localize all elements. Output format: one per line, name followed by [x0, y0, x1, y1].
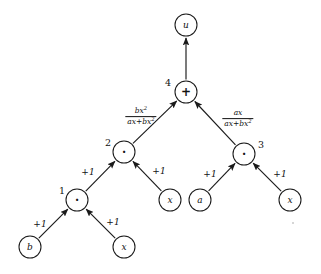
- computational-graph-figure: u+4·2·3·1xaxbxbx2ax+bx2axax+bx2+1+1+1+1+…: [0, 0, 321, 274]
- edge-label-e-a-n3: +1: [203, 169, 216, 179]
- fraction-denominator: ax+bx2: [125, 118, 156, 127]
- edge-label-e-n1-n2: +1: [81, 167, 94, 177]
- fraction-numerator: ax: [222, 109, 253, 118]
- fraction-numerator: bx2: [125, 107, 156, 116]
- edge-label-e-n3-n4: axax+bx2: [222, 109, 253, 129]
- edge-label-e-b-n1: +1: [33, 219, 46, 229]
- graph-canvas: [0, 0, 321, 274]
- node-label-n2: ·: [122, 146, 126, 158]
- edge-label-e-x1-n1: +1: [106, 217, 119, 227]
- fraction-denominator: ax+bx2: [222, 120, 253, 129]
- node-label-n1: ·: [75, 194, 79, 206]
- node-index-n2: 2: [105, 137, 111, 148]
- node-label-u: u: [183, 21, 189, 30]
- node-label-a: a: [197, 196, 202, 205]
- scan-speck: [292, 222, 294, 224]
- edge-label-e-n2-n4: bx2ax+bx2: [125, 107, 156, 127]
- node-index-n1: 1: [59, 185, 65, 196]
- node-label-x1: x: [121, 243, 126, 252]
- node-index-n4: 4: [165, 77, 171, 88]
- edge-label-e-x3-n3: +1: [273, 169, 286, 179]
- node-label-n3: ·: [242, 148, 246, 160]
- node-index-n3: 3: [258, 139, 264, 150]
- node-label-n4: +: [181, 86, 191, 98]
- nodes-group: [19, 14, 301, 258]
- node-label-x3: x: [287, 196, 292, 205]
- edge-label-e-x2-n2: +1: [152, 166, 165, 176]
- node-label-b: b: [27, 243, 33, 252]
- node-label-x2: x: [167, 196, 172, 205]
